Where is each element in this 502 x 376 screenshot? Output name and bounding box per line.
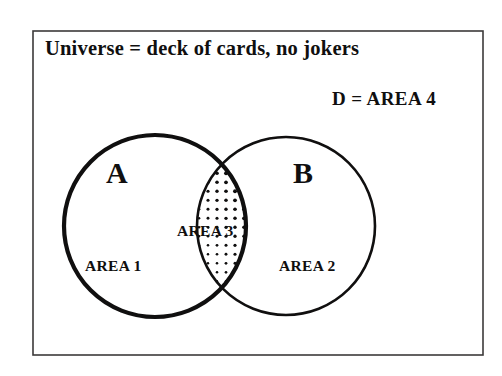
- area-1-label: AREA 1: [85, 258, 142, 274]
- set-a-label: A: [106, 158, 128, 188]
- set-b-label: B: [293, 158, 313, 188]
- universe-caption: Universe = deck of cards, no jokers: [45, 38, 359, 59]
- complement-caption: D = AREA 4: [332, 89, 436, 108]
- universe-boundary-box: [33, 31, 483, 355]
- area-3-label: AREA 3: [177, 223, 234, 239]
- area-2-label: AREA 2: [279, 258, 336, 274]
- venn-diagram-figure: Universe = deck of cards, no jokers D = …: [0, 0, 502, 376]
